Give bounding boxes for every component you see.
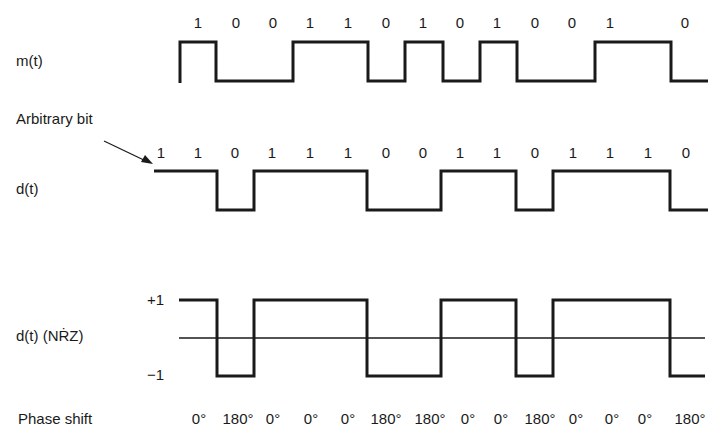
phase-value: 0°	[605, 410, 619, 427]
d-bit: 1	[151, 144, 171, 161]
m-bit: 0	[263, 14, 283, 31]
m-bit: 0	[450, 14, 470, 31]
waveforms	[0, 0, 718, 447]
m-bit: 1	[600, 14, 620, 31]
m-bit: 1	[300, 14, 320, 31]
m-bit: 1	[188, 14, 208, 31]
phase-value: 0°	[638, 410, 652, 427]
m-bit: 0	[525, 14, 545, 31]
d-bit: 1	[563, 144, 583, 161]
d-bit: 0	[413, 144, 433, 161]
m-bit: 0	[376, 14, 396, 31]
d-bit: 1	[300, 144, 320, 161]
d-bit: 1	[487, 144, 507, 161]
phase-value: 180°	[674, 410, 705, 427]
minus1-label: −1	[147, 366, 164, 383]
phase-value: 180°	[370, 410, 401, 427]
d-waveform	[154, 171, 708, 210]
phase-value: 0°	[569, 410, 583, 427]
d-bit: 1	[638, 144, 658, 161]
d-bit: 1	[338, 144, 358, 161]
phase-value: 0°	[494, 410, 508, 427]
phase-value: 180°	[414, 410, 445, 427]
phase-value: 180°	[524, 410, 555, 427]
nrz-label: d(t) (NṘZ)	[16, 327, 84, 344]
m-bit: 0	[562, 14, 582, 31]
m-label: m(t)	[16, 52, 43, 69]
phase-value: 0°	[266, 410, 280, 427]
d-label: d(t)	[16, 180, 39, 197]
d-bit: 0	[376, 144, 396, 161]
plus1-label: +1	[147, 291, 164, 308]
d-bit: 1	[600, 144, 620, 161]
arbitrary-bit-label: Arbitrary bit	[16, 110, 93, 127]
m-waveform	[180, 42, 708, 83]
m-bit: 1	[487, 14, 507, 31]
d-bit: 0	[525, 144, 545, 161]
m-bit: 0	[226, 14, 246, 31]
m-bit: 0	[675, 14, 695, 31]
phase-value: 0°	[304, 410, 318, 427]
d-bit: 1	[262, 144, 282, 161]
m-bit: 1	[338, 14, 358, 31]
d-bit: 0	[676, 144, 696, 161]
phase-shift-label: Phase shift	[18, 410, 92, 427]
d-bit: 0	[225, 144, 245, 161]
phase-value: 0°	[192, 410, 206, 427]
phase-value: 180°	[222, 410, 253, 427]
d-bit: 1	[450, 144, 470, 161]
phase-value: 0°	[461, 410, 475, 427]
d-bit: 1	[188, 144, 208, 161]
m-bit: 1	[413, 14, 433, 31]
phase-value: 0°	[341, 410, 355, 427]
